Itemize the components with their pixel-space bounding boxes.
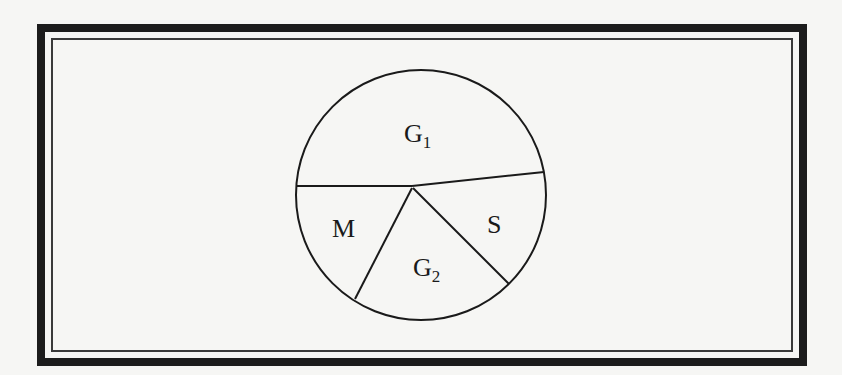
- circle-diagram: G1 S G2 M: [0, 0, 842, 375]
- divider-lower-left: [355, 188, 412, 299]
- region-g1-label: G1: [404, 119, 431, 152]
- region-g2-label: G2: [413, 253, 440, 286]
- region-m-label: M: [332, 214, 355, 243]
- region-s-label: S: [487, 210, 501, 239]
- divider-right: [412, 172, 544, 186]
